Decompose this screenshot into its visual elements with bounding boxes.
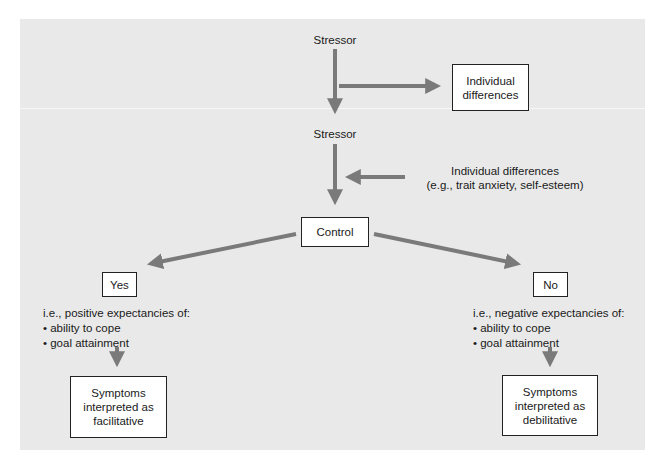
no-expectancies-item: • ability to cope <box>473 321 625 336</box>
stressor-second-label: Stressor <box>305 127 365 141</box>
no-expectancies-item: • goal attainment <box>473 336 625 351</box>
yes-box: Yes <box>102 272 137 297</box>
control-box: Control <box>301 217 369 247</box>
individual-differences-note-line1: Individual differences <box>412 164 598 178</box>
individual-differences-box: Individual differences <box>452 64 529 111</box>
arrow-control-to-yes <box>154 234 296 263</box>
outcome-facilitative-box: Symptoms interpreted as facilitative <box>70 376 167 438</box>
outcome-debilitative-box: Symptoms interpreted as debilitative <box>502 375 598 436</box>
no-box: No <box>533 272 568 297</box>
arrow-control-to-no <box>374 234 514 263</box>
no-expectancies-heading: i.e., negative expectancies of: <box>473 306 625 321</box>
individual-differences-note: Individual differences (e.g., trait anxi… <box>412 164 598 192</box>
yes-expectancies-item: • goal attainment <box>43 336 190 351</box>
yes-expectancies-heading: i.e., positive expectancies of: <box>43 306 190 321</box>
yes-expectancies-item: • ability to cope <box>43 321 190 336</box>
individual-differences-note-line2: (e.g., trait anxiety, self-esteem) <box>412 178 598 192</box>
no-expectancies: i.e., negative expectancies of: • abilit… <box>473 306 625 351</box>
stressor-top-label: Stressor <box>305 33 365 47</box>
yes-expectancies: i.e., positive expectancies of: • abilit… <box>43 306 190 351</box>
